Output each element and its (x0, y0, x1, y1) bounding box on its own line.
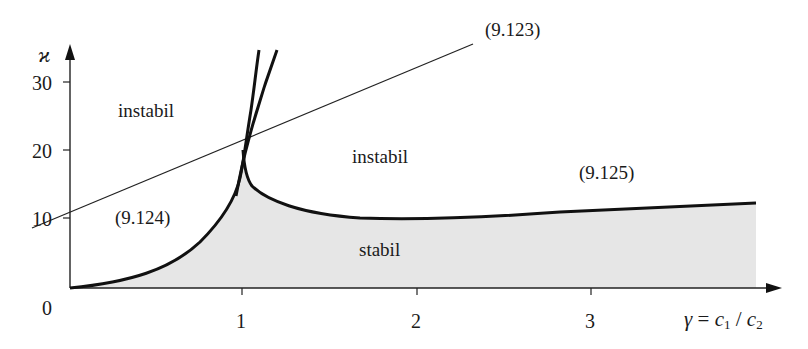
y-ticks (63, 82, 70, 218)
region-instabil-left: instabil (118, 101, 174, 120)
x-axis-c1: c (715, 307, 724, 331)
x-ticks (242, 288, 591, 295)
y-axis-arrow (65, 44, 75, 60)
x-axis-label: γ = c1 / c2 (684, 309, 763, 331)
x-axis-eq: = (692, 307, 714, 331)
annotation-9-123: (9.123) (485, 20, 540, 39)
x-axis-sub2: 2 (756, 317, 763, 332)
x-tick-1: 1 (236, 311, 246, 331)
y-tick-20: 20 (32, 141, 52, 161)
y-tick-30: 30 (32, 73, 52, 93)
y-axis-label: ϰ (38, 44, 50, 66)
annotation-9-125: (9.125) (579, 163, 634, 182)
annotation-9-124: (9.124) (115, 208, 170, 227)
origin-label: 0 (42, 298, 52, 318)
x-tick-2: 2 (411, 311, 421, 331)
x-axis-c2: c (747, 307, 756, 331)
region-instabil-right: instabil (352, 147, 408, 166)
x-axis-slash: / (730, 307, 746, 331)
stability-chart (0, 0, 808, 349)
x-axis-arrow (766, 283, 782, 293)
region-stabil: stabil (359, 240, 400, 259)
y-tick-10: 10 (32, 209, 52, 229)
x-tick-3: 3 (585, 311, 595, 331)
